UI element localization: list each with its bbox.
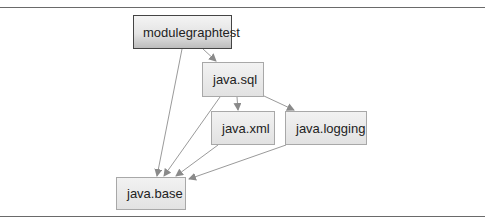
edge-modulegraphtest-java-sql [203, 49, 216, 61]
edge-modulegraphtest-java-base [157, 49, 182, 176]
node-java-logging[interactable]: java.logging [285, 111, 367, 145]
node-label: java.base [127, 186, 183, 201]
edge-java-sql-java-xml [237, 97, 238, 110]
node-modulegraphtest[interactable]: modulegraphtest [133, 15, 232, 49]
bottom-rule [0, 216, 485, 217]
edge-java-logging-java-base [189, 145, 286, 179]
node-label: java.xml [222, 121, 270, 136]
node-java-xml[interactable]: java.xml [211, 111, 275, 145]
edge-java-sql-java-logging [264, 96, 294, 110]
node-label: java.sql [213, 72, 257, 87]
node-label: java.logging [296, 121, 365, 136]
node-label: modulegraphtest [143, 25, 240, 40]
node-java-base[interactable]: java.base [116, 177, 186, 210]
node-java-sql[interactable]: java.sql [202, 62, 264, 97]
